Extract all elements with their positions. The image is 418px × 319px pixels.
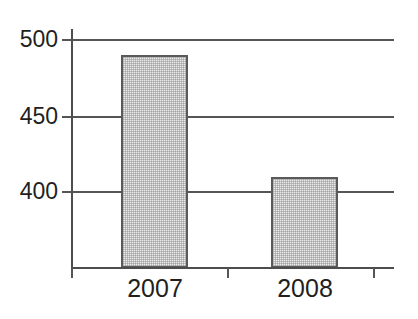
plot-area: 500 450 400 2007 2008 (0, 0, 418, 319)
gridline-400 (71, 191, 394, 193)
bar-2007 (121, 55, 188, 268)
x-tick-label-2008: 2008 (255, 276, 355, 301)
bar-2008 (271, 177, 338, 268)
bar-chart: 500 450 400 2007 2008 (0, 0, 418, 319)
y-tick-label-500: 500 (2, 28, 58, 51)
y-tick-label-400-wrap: 400 (0, 180, 58, 204)
gridline-500 (71, 39, 394, 41)
y-tick-label-450: 450 (2, 105, 58, 128)
y-tick-label-400: 400 (2, 180, 58, 203)
y-axis-spine (71, 29, 73, 270)
gridline-450 (71, 116, 394, 118)
x-tick-mark-right (373, 268, 375, 278)
x-tick-mark-left (71, 268, 73, 278)
y-tick-label-500-wrap: 500 (0, 28, 58, 52)
y-tick-label-450-wrap: 450 (0, 105, 58, 129)
x-tick-label-2007: 2007 (105, 276, 205, 301)
x-tick-mark-middle (227, 268, 229, 278)
x-axis-spine (71, 267, 394, 269)
